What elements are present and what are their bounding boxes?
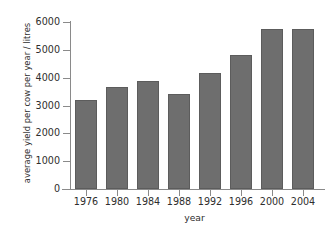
y-tick-label-wrap: 0 bbox=[0, 184, 60, 194]
y-tick-label-wrap: 3000 bbox=[0, 101, 60, 111]
bar bbox=[75, 100, 97, 189]
x-axis-line bbox=[62, 189, 325, 190]
bar bbox=[106, 87, 128, 189]
bar bbox=[199, 73, 221, 189]
y-tick-mark bbox=[63, 50, 70, 51]
x-tick-label: 2004 bbox=[283, 197, 323, 208]
y-tick-label: 5000 bbox=[2, 45, 60, 55]
y-tick-label-wrap: 6000 bbox=[0, 17, 60, 27]
plot-area bbox=[70, 22, 319, 189]
y-tick-label-wrap: 1000 bbox=[0, 156, 60, 166]
y-tick-label: 2000 bbox=[2, 128, 60, 138]
y-tick-mark bbox=[63, 106, 70, 107]
y-tick-label: 6000 bbox=[2, 17, 60, 27]
bar bbox=[292, 29, 314, 189]
y-tick-label: 3000 bbox=[2, 101, 60, 111]
y-tick-label: 4000 bbox=[2, 73, 60, 83]
bar bbox=[137, 81, 159, 189]
bar bbox=[168, 94, 190, 189]
y-tick-mark bbox=[63, 189, 70, 190]
y-tick-label-wrap: 4000 bbox=[0, 73, 60, 83]
y-tick-label-wrap: 2000 bbox=[0, 128, 60, 138]
bar bbox=[230, 55, 252, 189]
bar-chart: average yield per cow per year / litres … bbox=[0, 0, 333, 230]
y-tick-label: 0 bbox=[2, 184, 60, 194]
y-tick-mark bbox=[63, 161, 70, 162]
y-tick-label: 1000 bbox=[2, 156, 60, 166]
bar bbox=[261, 29, 283, 189]
y-tick-mark bbox=[63, 78, 70, 79]
y-tick-label-wrap: 5000 bbox=[0, 45, 60, 55]
y-tick-mark bbox=[63, 22, 70, 23]
x-axis-title: year bbox=[70, 212, 319, 223]
y-tick-mark bbox=[63, 133, 70, 134]
